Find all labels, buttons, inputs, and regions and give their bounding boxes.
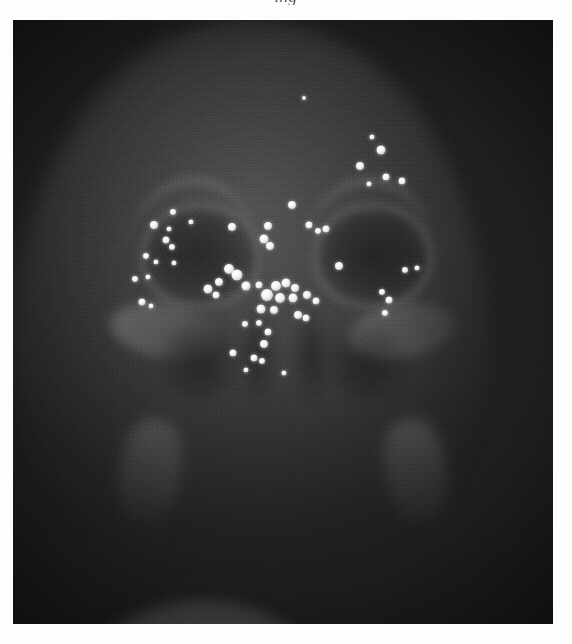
cut-off-caption-text: ing	[0, 0, 572, 5]
page-root: ing	[0, 0, 572, 644]
skull-radiograph-image	[13, 20, 553, 624]
film-grain-noise-2	[13, 20, 553, 624]
